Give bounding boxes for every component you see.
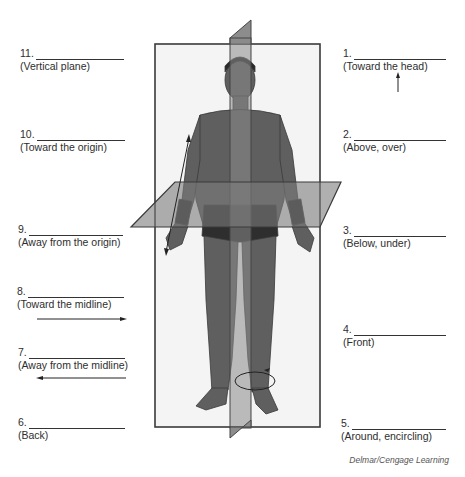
answer-blank-3[interactable] [354,226,446,237]
answer-blank-2[interactable] [354,130,446,141]
answer-blank-11[interactable] [36,49,124,60]
answer-blank-1[interactable] [354,49,446,60]
label-2: 2. (Above, over) [343,128,446,154]
image-credit: Delmar/Cengage Learning [349,455,449,465]
answer-blank-6[interactable] [29,418,125,429]
label-8: 8. (Toward the midline) [17,285,124,311]
label-4: 4. (Front) [343,323,446,349]
answer-blank-4[interactable] [354,325,446,336]
label-9: 9. (Away from the origin) [18,223,123,249]
answer-blank-8[interactable] [28,287,124,298]
label-5: 5. (Around, encircling) [341,417,446,443]
label-10: 10. (Toward the origin) [20,128,125,154]
label-3: 3. (Below, under) [343,224,446,250]
label-1: 1. (Toward the head) [343,47,446,73]
answer-blank-7[interactable] [29,348,125,359]
answer-blank-5[interactable] [352,419,446,430]
label-11: 11. (Vertical plane) [20,47,124,73]
label-6: 6. (Back) [18,416,125,442]
answer-blank-9[interactable] [29,225,123,236]
answer-blank-10[interactable] [37,130,125,141]
label-7: 7. (Away from the midline) [18,346,128,372]
sagittal-plane [230,38,251,428]
